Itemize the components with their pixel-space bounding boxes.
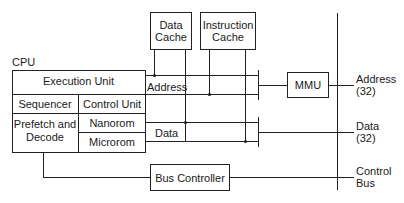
address-bus-label-line1: Address [356, 73, 396, 85]
instruction-cache-line2: Cache [212, 31, 244, 43]
instruction-cache-line1: Instruction [203, 19, 254, 31]
mmu-block: MMU [287, 72, 329, 98]
data-cache-line2: Cache [155, 31, 187, 43]
internal-address-label: Address [147, 81, 187, 93]
data-cache-block: Data Cache [150, 12, 192, 50]
sequencer-block: Sequencer [12, 98, 78, 110]
data-bus-label-line2: (32) [356, 132, 376, 144]
control-bus-label-line2: Bus [356, 177, 375, 189]
microrom-block: Microrom [79, 136, 145, 148]
control-bus-label-line1: Control [356, 165, 391, 177]
data-cache-line1: Data [159, 19, 182, 31]
nanorom-block: Nanorom [79, 117, 145, 129]
execution-unit-block: Execution Unit [12, 75, 145, 87]
address-bus-label-line2: (32) [356, 85, 376, 97]
prefetch-decode-line2: Decode [12, 131, 78, 143]
data-bus-label-line1: Data [356, 120, 379, 132]
instruction-cache-block: Instruction Cache [200, 12, 256, 50]
cpu-label: CPU [12, 56, 35, 68]
internal-data-label: Data [155, 127, 178, 139]
prefetch-decode-line1: Prefetch and [12, 118, 78, 130]
control-unit-block: Control Unit [79, 98, 145, 110]
bus-controller-block: Bus Controller [150, 164, 230, 191]
